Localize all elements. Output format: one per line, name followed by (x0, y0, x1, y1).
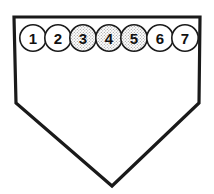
numbered-marker-1[interactable]: 1 (20, 25, 46, 51)
marker-label-6: 6 (156, 30, 164, 47)
numbered-marker-6[interactable]: 6 (147, 25, 173, 51)
numbered-marker-4[interactable]: 4 (96, 25, 122, 51)
numbered-marker-5[interactable]: 5 (121, 25, 147, 51)
marker-label-4: 4 (105, 30, 114, 47)
marker-label-3: 3 (79, 30, 87, 47)
marker-label-1: 1 (29, 30, 37, 47)
marker-label-7: 7 (181, 30, 189, 47)
marker-label-5: 5 (130, 30, 138, 47)
home-plate-svg: 1 2 3 4 5 6 (0, 0, 214, 194)
numbered-marker-7[interactable]: 7 (172, 25, 198, 51)
marker-label-2: 2 (54, 30, 62, 47)
home-plate-diagram: 1 2 3 4 5 6 (0, 0, 214, 194)
numbered-marker-3[interactable]: 3 (70, 25, 96, 51)
numbered-marker-2[interactable]: 2 (45, 25, 71, 51)
